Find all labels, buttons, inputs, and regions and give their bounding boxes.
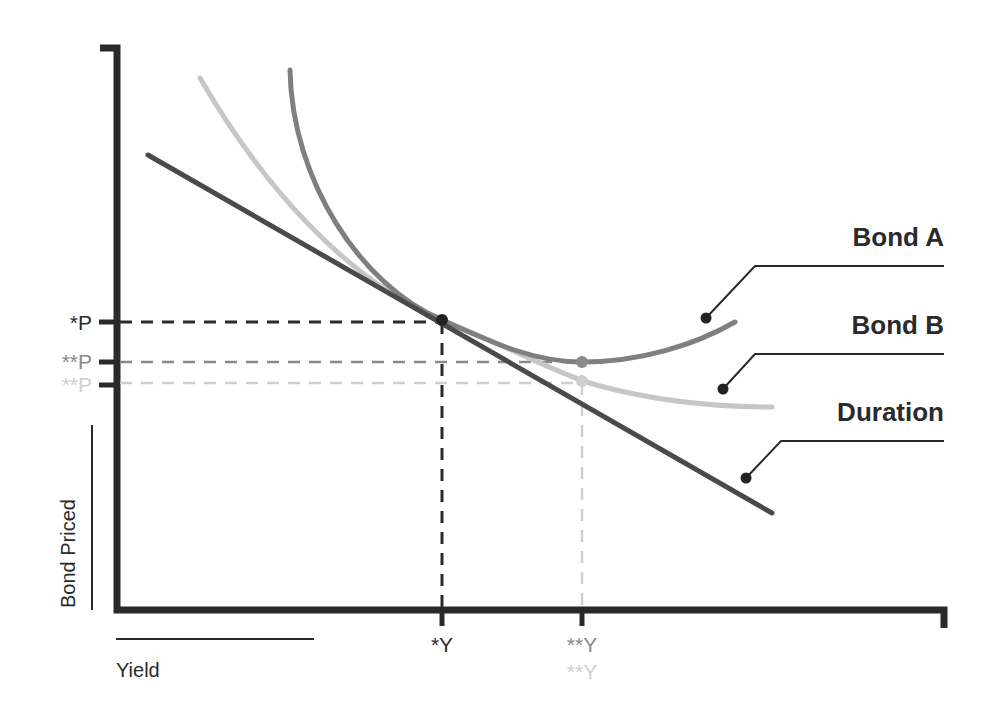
- series-duration: [148, 155, 772, 513]
- legend: Bond A Bond B Duration: [837, 222, 944, 427]
- bond-price-yield-chart: Bond A Bond B Duration *P **P **P *Y **Y…: [0, 0, 992, 714]
- series-bond-a: [290, 70, 735, 362]
- y-tick-label-double-b: **P: [62, 373, 92, 396]
- axis-frame: [100, 48, 944, 628]
- leader-dot-duration: [741, 473, 752, 484]
- legend-label-bond-b: Bond B: [852, 310, 944, 340]
- leader-dot-bond-b: [718, 384, 729, 395]
- x-tick-labels: *Y **Y **Y: [431, 633, 597, 683]
- leader-duration: [746, 441, 944, 478]
- x-tick-label-star: *Y: [431, 633, 453, 656]
- x-axis-title: Yield: [116, 659, 160, 681]
- x-tick-label-double-b: **Y: [567, 660, 597, 683]
- point-bond-a-double: [576, 356, 588, 368]
- series-bond-b: [200, 78, 772, 407]
- y-tick-label-star: *P: [70, 311, 92, 334]
- legend-leaders: [701, 266, 945, 484]
- leader-dot-bond-a: [701, 313, 712, 324]
- axes: [100, 48, 944, 628]
- y-tick-label-double-a: **P: [62, 350, 92, 373]
- leader-bond-b: [723, 354, 944, 389]
- axis-titles: Yield Bond Priced: [57, 425, 314, 681]
- legend-label-duration: Duration: [837, 397, 944, 427]
- point-star: [436, 314, 448, 326]
- legend-label-bond-a: Bond A: [853, 222, 945, 252]
- point-bond-b-double: [576, 375, 588, 387]
- x-tick-label-double-a: **Y: [567, 633, 597, 656]
- y-axis-title: Bond Priced: [57, 499, 79, 608]
- y-tick-labels: *P **P **P: [62, 311, 92, 396]
- series: [148, 70, 772, 513]
